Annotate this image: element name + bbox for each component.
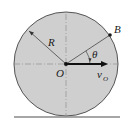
velocity-subscript: O	[103, 75, 108, 83]
angle-label: θ	[92, 48, 98, 60]
point-B-dot	[108, 33, 112, 37]
center-label: O	[56, 67, 64, 79]
point-B-label: B	[114, 23, 121, 35]
center-dot	[64, 62, 68, 66]
rolling-disk-diagram: R B θ O v O	[0, 0, 128, 127]
velocity-label: v	[97, 68, 102, 80]
radius-label: R	[47, 36, 55, 48]
